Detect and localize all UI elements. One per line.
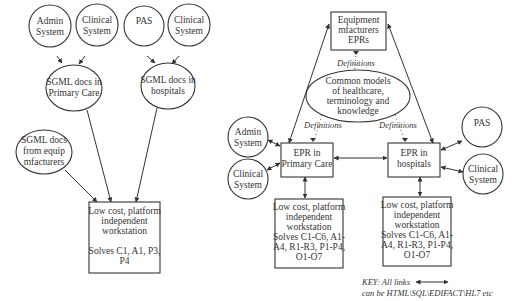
node-label: workstation [102,226,147,236]
node-label: from equip [23,146,65,156]
node-label: terminology and [327,96,390,106]
node-label: Clinical [233,169,263,179]
arrow-admin-to-sgml-primary [57,56,62,63]
node-label: EPR in [400,148,427,158]
node-label: System [234,138,263,148]
node-label: hospitals [397,159,431,169]
node-label: Solves C1-C6, A1- [273,232,345,242]
key-text-line2: can be HTML\SQL\EDIFACT\HL7 etc [362,288,493,298]
node-common-models: Common models of healthcare, terminology… [306,70,410,122]
node-label: independent [101,216,148,226]
node-label: Primary Care [282,159,333,169]
node-label: mfacturers [24,157,65,167]
link-admin-epr-primary [268,140,280,146]
node-label: Primary Care [49,88,100,98]
node-admin-system-right: Admin System [228,117,268,157]
arrow-sgml-hospitals-to-workstation [136,108,157,202]
node-label: SGML docs [21,135,67,145]
node-label: PAS [474,118,491,128]
link-epr-hospitals-clinical [441,167,463,172]
node-label: Solves C1-C6, A1- [381,230,453,240]
node-label: A4, R1-R3, P1-P4, [381,240,453,250]
node-sgml-equip-mfacturers: SGML docs from equip mfacturers [16,130,72,174]
node-label: Solves C1, A1, P3, [89,246,161,256]
node-label: Low cost, platform [381,200,454,210]
node-workstation-hospitals: Low cost, platform independent workstati… [381,197,454,266]
arrowhead [402,138,408,142]
node-label: System [83,26,112,36]
node-label: Clinical [82,15,112,25]
node-label: Admin [235,127,262,137]
node-pas: PAS [124,6,164,46]
node-label: independent [394,210,441,220]
definitions-label-left: Definitions [303,120,342,130]
node-label: P4 [119,256,129,266]
node-label: independent [286,212,333,222]
node-label: Clinical [468,164,498,174]
node-label: System [36,27,65,37]
node-clinical-system-2: Clinical System [168,4,210,46]
node-epr-hospitals: EPR in hospitals [388,143,440,177]
link-clinical-epr-primary [267,163,280,170]
node-equipment-epr: Equipment mfacturers EPRs [331,12,386,50]
node-clinical-system-far-right: Clinical System [463,154,503,194]
link-epr-hospitals-pas [441,141,462,150]
node-label: hospitals [151,86,185,96]
left-diagram: Admin System Clinical System PAS Clinica… [16,4,210,273]
right-diagram: Definitions Definitions Definitions Equi… [228,12,503,298]
node-label: mfacturers [338,25,379,35]
node-label: System [175,26,204,36]
arrowhead [310,138,316,142]
node-sgml-hospitals: SGML docs in hospitals [140,63,196,109]
node-label: System [469,175,498,185]
arrow-sgml-equip-to-workstation [65,170,97,202]
node-label: Clinical [174,15,204,25]
node-label: workstation [287,222,332,232]
node-clinical-system: Clinical System [76,4,118,46]
node-label: EPRs [348,35,369,45]
node-label: SGML docs in [46,77,102,87]
node-label: Equipment [338,15,380,25]
node-workstation-left: Low cost, platform independent workstati… [88,202,161,273]
arrow-pas-to-sgml-hospitals [147,56,155,63]
arrowhead [353,51,359,55]
diagram-canvas: Admin System Clinical System PAS Clinica… [0,0,513,301]
node-label: of healthcare, [332,86,384,96]
node-label: EPR in [293,148,320,158]
arrow-sgml-primary-to-workstation [87,110,111,202]
node-label: Low cost, platform [273,202,346,212]
key-text-line1: KEY: All links [361,277,411,287]
node-epr-primary-care: EPR in Primary Care [281,143,333,177]
node-label: SGML docs in [140,75,196,85]
legend-key: KEY: All links can be HTML\SQL\EDIFACT\H… [361,277,493,298]
node-label: Low cost, platform [88,206,161,216]
node-label: PAS [136,16,153,26]
node-label: A4, R1-R3, P1-P4, [273,242,345,252]
node-label: Common models [325,76,390,86]
node-label: knowledge [337,106,379,116]
node-label: Admin [37,16,64,26]
node-pas-right: PAS [462,107,502,147]
node-admin-system: Admin System [29,5,71,47]
definitions-label-top: Definitions [336,58,375,68]
arrow-clinical2-to-sgml-hospitals [172,56,179,64]
node-sgml-primary-care: SGML docs in Primary Care [46,65,102,111]
node-label: O1-O7 [296,252,323,262]
definitions-label-right: Definitions [378,120,417,130]
arrow-clinical-to-sgml-primary [79,56,85,64]
node-workstation-primary: Low cost, platform independent workstati… [273,199,346,268]
node-label: System [234,180,263,190]
node-clinical-system-right: Clinical System [228,159,268,199]
node-label: O1-O7 [404,250,431,260]
node-label: workstation [395,220,440,230]
